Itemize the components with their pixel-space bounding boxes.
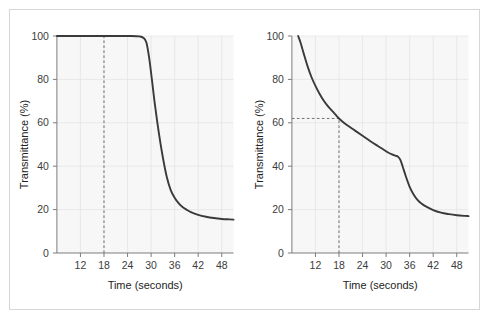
chart-right-svg: 020406080100 12182430364248 Time (second… xyxy=(245,10,480,309)
y-tick-label: 0 xyxy=(43,248,49,259)
y-tick-labels: 020406080100 xyxy=(266,31,284,259)
y-axis-title: Transmittance (%) xyxy=(18,100,30,189)
plot-background xyxy=(57,36,234,253)
x-tick-label: 30 xyxy=(145,260,157,271)
x-tick-label: 12 xyxy=(75,260,87,271)
y-tick-labels: 020406080100 xyxy=(31,31,49,259)
y-tick-label: 60 xyxy=(37,117,49,128)
x-tick-labels: 12182430364248 xyxy=(75,260,228,271)
y-tick-label: 80 xyxy=(37,74,49,85)
plot-background xyxy=(291,36,468,253)
x-tick-label: 48 xyxy=(450,260,462,271)
x-tick-label: 42 xyxy=(427,260,439,271)
x-axis-title: Time (seconds) xyxy=(108,279,183,291)
x-tick-label: 24 xyxy=(122,260,134,271)
x-tick-label: 18 xyxy=(333,260,345,271)
x-tick-label: 48 xyxy=(216,260,228,271)
x-tick-label: 12 xyxy=(309,260,321,271)
y-tick-label: 100 xyxy=(31,31,49,42)
y-tick-label: 0 xyxy=(278,248,284,259)
y-tick-label: 60 xyxy=(272,117,284,128)
y-tick-label: 40 xyxy=(272,161,284,172)
y-tick-label: 20 xyxy=(272,204,284,215)
x-tick-label: 24 xyxy=(356,260,368,271)
x-tick-label: 30 xyxy=(380,260,392,271)
x-tick-label: 36 xyxy=(169,260,181,271)
chart-panel-right: 020406080100 12182430364248 Time (second… xyxy=(245,10,480,309)
x-axis-title: Time (seconds) xyxy=(342,279,417,291)
x-tick-label: 36 xyxy=(403,260,415,271)
x-tick-label: 42 xyxy=(192,260,204,271)
chart-panel-left: 020406080100 12182430364248 Time (second… xyxy=(10,10,245,309)
y-tick-label: 40 xyxy=(37,161,49,172)
figure-frame: 020406080100 12182430364248 Time (second… xyxy=(9,9,480,310)
y-tick-label: 20 xyxy=(37,204,49,215)
plot-area-right: 020406080100 12182430364248 xyxy=(266,31,468,271)
y-tick-label: 80 xyxy=(272,74,284,85)
plot-area-left: 020406080100 12182430364248 xyxy=(31,31,233,271)
y-tick-label: 100 xyxy=(266,31,284,42)
x-tick-label: 18 xyxy=(98,260,110,271)
chart-left-svg: 020406080100 12182430364248 Time (second… xyxy=(10,10,245,309)
y-axis-title: Transmittance (%) xyxy=(252,100,264,189)
x-tick-labels: 12182430364248 xyxy=(309,260,462,271)
